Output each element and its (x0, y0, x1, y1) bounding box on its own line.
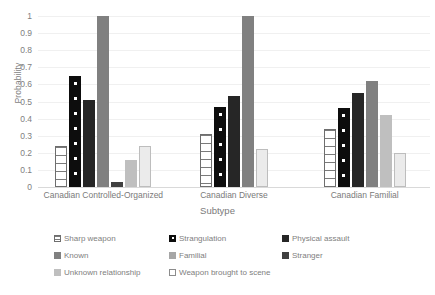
bar (242, 16, 254, 187)
legend-item[interactable]: Familial (169, 251, 207, 260)
legend-label: Stranger (292, 251, 323, 260)
probability-bar-chart: Probability 10.90.80.70.60.50.40.30.20.1… (0, 0, 435, 295)
legend-item[interactable]: Physical assault (282, 234, 349, 243)
x-category-label: Canadian Diverse (200, 190, 268, 200)
bar (214, 107, 226, 187)
bar (228, 96, 240, 187)
bar (139, 146, 151, 187)
bar (324, 129, 336, 187)
legend-item[interactable]: Weapon brought to scene (169, 268, 270, 277)
bar (97, 16, 109, 187)
bar (338, 108, 350, 187)
legend-label: Physical assault (292, 234, 349, 243)
y-tick-label: 0.3 (20, 131, 32, 141)
y-tick-label: 0.4 (20, 114, 32, 124)
bar (83, 100, 95, 187)
legend-swatch-icon (54, 269, 61, 276)
legend-swatch-icon (282, 235, 289, 242)
legend-item[interactable]: Known (54, 251, 88, 260)
y-axis-tick-labels: 10.90.80.70.60.50.40.30.20.10 (0, 16, 34, 187)
legend-item[interactable]: Sharp weapon (54, 234, 116, 243)
y-tick-label: 0.2 (20, 148, 32, 158)
legend-label: Known (64, 251, 88, 260)
legend-swatch-pattern (169, 235, 176, 242)
y-tick-label: 0.6 (20, 79, 32, 89)
legend-swatch-icon (282, 252, 289, 259)
legend-item[interactable]: Stranger (282, 251, 323, 260)
legend-label: Unknown relationship (64, 268, 141, 277)
bar (394, 153, 406, 187)
y-tick-label: 0.1 (20, 165, 32, 175)
legend-item[interactable]: Unknown relationship (54, 268, 141, 277)
x-category-label: Canadian Familial (331, 190, 399, 200)
bar (125, 160, 137, 187)
bar (69, 76, 81, 187)
bar (256, 149, 268, 187)
x-axis-title: Subtype (0, 205, 435, 216)
y-tick-label: 1 (27, 11, 32, 21)
y-tick-label: 0.8 (20, 45, 32, 55)
legend-label: Sharp weapon (64, 234, 116, 243)
bar (111, 182, 123, 187)
legend-swatch-icon (169, 235, 176, 242)
bar-pattern-dots (214, 107, 226, 187)
bar-pattern-dots (69, 76, 81, 187)
legend-label: Weapon brought to scene (179, 268, 270, 277)
legend-swatch-icon (54, 235, 61, 242)
legend-swatch-icon (169, 269, 176, 276)
x-axis-category-labels: Canadian Controlled-OrganizedCanadian Di… (38, 190, 430, 204)
chart-legend: Sharp weaponStrangulationPhysical assaul… (54, 234, 394, 282)
bar-pattern-dots (338, 108, 350, 187)
plot-area (38, 16, 430, 187)
bar (366, 81, 378, 187)
y-tick-label: 0.9 (20, 28, 32, 38)
legend-swatch-icon (54, 252, 61, 259)
y-tick-label: 0.7 (20, 62, 32, 72)
legend-swatch-icon (169, 252, 176, 259)
gridline (38, 187, 430, 188)
y-tick-label: 0.5 (20, 97, 32, 107)
bar (380, 115, 392, 187)
x-category-label: Canadian Controlled-Organized (44, 190, 164, 200)
y-tick-label: 0 (27, 182, 32, 192)
legend-item[interactable]: Strangulation (169, 234, 226, 243)
bar (55, 146, 67, 187)
bar (352, 93, 364, 187)
bar (200, 134, 212, 187)
legend-label: Familial (179, 251, 207, 260)
legend-label: Strangulation (179, 234, 226, 243)
